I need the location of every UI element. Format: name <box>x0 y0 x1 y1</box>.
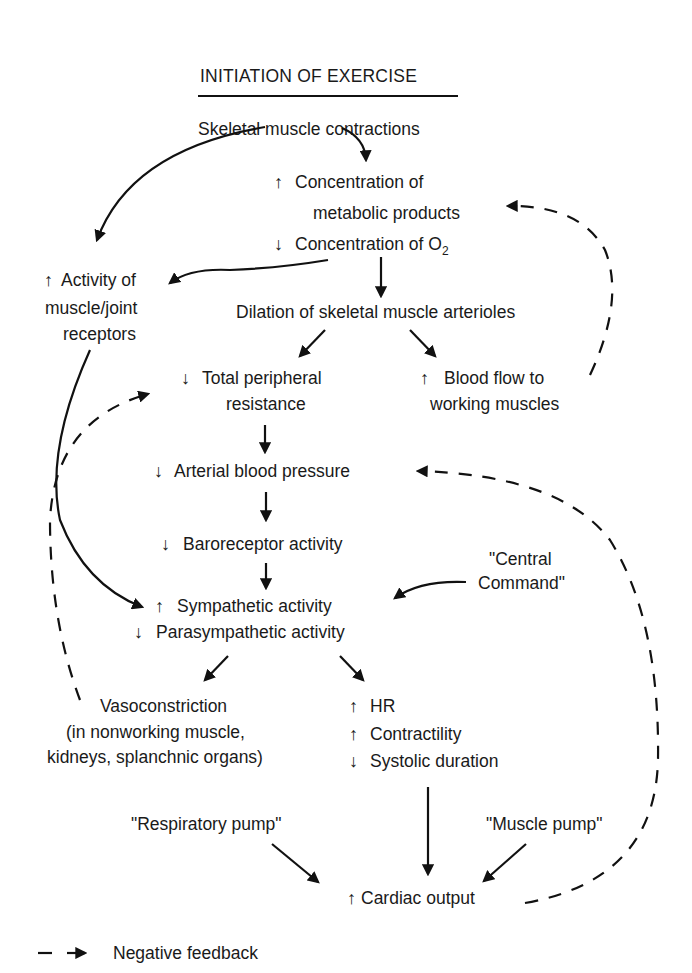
node-hr: HR <box>370 696 395 716</box>
exercise-cardiovascular-flow-diagram: INITIATION OF EXERCISE Skeletal muscle c… <box>0 0 692 973</box>
feedback-bloodflow-to-metabolic <box>508 206 612 375</box>
down-arrow-icon: ↓ <box>181 368 190 388</box>
arrow-receptors-to-sympathetic <box>56 350 142 607</box>
up-arrow-icon: ↑ <box>349 724 358 744</box>
node-metabolic-line1: Concentration of <box>295 172 424 192</box>
node-tpr-line2: resistance <box>226 394 306 414</box>
node-systolic-duration: Systolic duration <box>370 751 498 771</box>
down-arrow-icon: ↓ <box>161 534 170 554</box>
feedback-vasoconstriction-to-tpr <box>50 394 148 700</box>
arrow-contractions-to-receptors <box>97 127 265 240</box>
node-vasoconstriction-line1: Vasoconstriction <box>100 696 227 716</box>
node-central-command-line1: "Central <box>489 549 552 569</box>
node-skeletal-contractions: Skeletal muscle contractions <box>198 119 420 139</box>
arrow-central-command-to-sympathetic <box>395 582 466 598</box>
node-bloodflow-line2: working muscles <box>429 394 560 414</box>
diagram-title: INITIATION OF EXERCISE <box>200 66 417 86</box>
up-arrow-icon: ↑ <box>420 368 429 388</box>
up-arrow-icon: ↑ <box>44 270 53 290</box>
node-bloodflow-line1: Blood flow to <box>444 368 544 388</box>
node-central-command-line2: Command" <box>478 573 565 593</box>
up-arrow-icon: ↑ <box>347 888 356 908</box>
legend: Negative feedback <box>38 943 258 963</box>
node-tpr-line1: Total peripheral <box>202 368 322 388</box>
node-respiratory-pump: "Respiratory pump" <box>131 814 282 834</box>
arrow-respiratory-pump-to-cardiac-output <box>272 844 318 882</box>
node-contractility: Contractility <box>370 724 462 744</box>
node-dilation: Dilation of skeletal muscle arterioles <box>236 302 515 322</box>
node-baroreceptor: Baroreceptor activity <box>183 534 343 554</box>
node-receptors-line3: receptors <box>63 324 136 344</box>
down-arrow-icon: ↓ <box>274 234 283 254</box>
node-cardiac-output: Cardiac output <box>361 888 475 908</box>
arrow-autonomic-to-heart <box>340 656 363 680</box>
arrow-o2-to-receptors <box>170 260 328 283</box>
arrow-muscle-pump-to-cardiac-output <box>484 844 526 881</box>
up-arrow-icon: ↑ <box>274 172 283 192</box>
node-receptors-line1: Activity of <box>61 270 136 290</box>
node-o2-concentration: Concentration of O2 <box>295 234 449 258</box>
node-receptors-line2: muscle/joint <box>45 298 138 318</box>
node-vasoconstriction-line3: kidneys, splanchnic organs) <box>47 747 263 767</box>
node-parasympathetic: Parasympathetic activity <box>156 622 345 642</box>
arrow-autonomic-to-vasoconstriction <box>205 656 228 680</box>
arrow-dilation-to-tpr <box>300 330 325 356</box>
feedback-cardiac-output-to-bp <box>418 471 658 903</box>
node-muscle-pump: "Muscle pump" <box>486 814 603 834</box>
down-arrow-icon: ↓ <box>349 751 358 771</box>
down-arrow-icon: ↓ <box>134 622 143 642</box>
node-vasoconstriction-line2: (in nonworking muscle, <box>66 722 245 742</box>
node-metabolic-line2: metabolic products <box>313 203 460 223</box>
up-arrow-icon: ↑ <box>155 596 164 616</box>
node-arterial-bp: Arterial blood pressure <box>174 461 350 481</box>
legend-label: Negative feedback <box>113 943 258 963</box>
arrow-dilation-to-bloodflow <box>410 330 435 356</box>
down-arrow-icon: ↓ <box>154 461 163 481</box>
up-arrow-icon: ↑ <box>349 696 358 716</box>
node-sympathetic: Sympathetic activity <box>177 596 332 616</box>
